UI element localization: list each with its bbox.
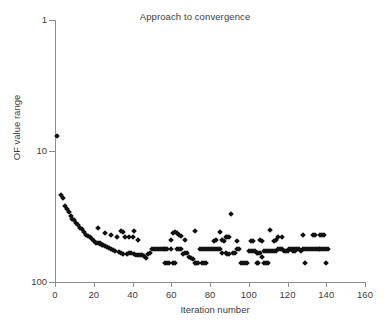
x-axis-tick <box>94 282 95 287</box>
x-axis-tick <box>171 282 172 287</box>
x-axis-tick <box>326 282 327 287</box>
x-axis-tick <box>288 282 289 287</box>
x-axis-tick-label: 140 <box>311 289 341 300</box>
x-axis-tick-label: 80 <box>195 289 225 300</box>
x-axis-tick-label: 160 <box>350 289 380 300</box>
x-axis-tick-label: 100 <box>234 289 264 300</box>
x-axis-tick <box>55 282 56 287</box>
y-axis-tick-label: 10 <box>36 146 47 156</box>
y-axis-title: OF value range <box>11 68 22 188</box>
x-axis-tick <box>249 282 250 287</box>
x-axis-tick-label: 60 <box>156 289 186 300</box>
x-axis-tick <box>365 282 366 287</box>
x-axis-title: Iteration number <box>140 304 290 315</box>
x-axis-tick-label: 0 <box>40 289 70 300</box>
x-axis-tick-label: 120 <box>273 289 303 300</box>
scatter-chart: Approach to convergence 100101 020406080… <box>0 0 388 328</box>
x-axis-tick <box>133 282 134 287</box>
x-axis-tick-label: 40 <box>118 289 148 300</box>
y-axis-tick-label: 100 <box>31 277 47 287</box>
x-axis-tick-label: 20 <box>79 289 109 300</box>
x-axis-tick <box>210 282 211 287</box>
y-axis-tick-label: 1 <box>42 15 47 25</box>
